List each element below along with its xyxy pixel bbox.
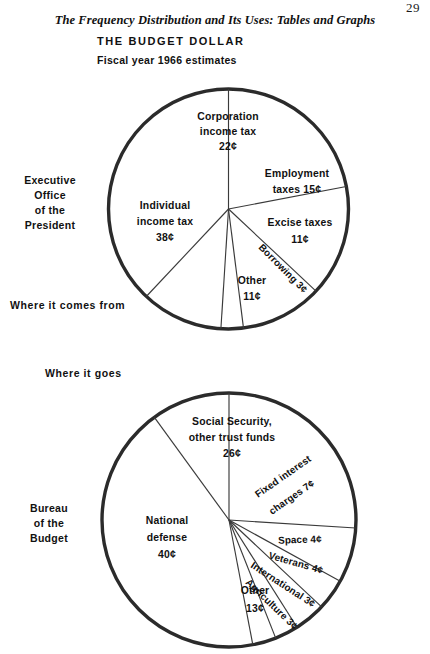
bottom-label-social-line2: other trust funds xyxy=(189,432,276,443)
bottom-label-social-value: 26¢ xyxy=(223,448,241,459)
bottom-label-defense-line1: National xyxy=(146,515,189,526)
bottom-pie-chart: Social Security, other trust funds 26¢ F… xyxy=(0,0,430,654)
bottom-label-other-line1: Other xyxy=(241,585,270,596)
bottom-label-defense-value: 40¢ xyxy=(158,549,176,560)
bottom-label-space: Space 4¢ xyxy=(278,533,322,546)
bottom-label-social-line1: Social Security, xyxy=(192,416,272,427)
page-canvas: 29 The Frequency Distribution and Its Us… xyxy=(0,0,430,654)
bottom-label-defense-line2: defense xyxy=(147,532,188,543)
bottom-label-other-value: 13¢ xyxy=(246,603,264,614)
